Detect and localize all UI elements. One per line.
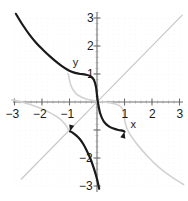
x-tick-label: 1	[122, 108, 129, 120]
x-tick-label: −3	[6, 108, 20, 120]
y-tick-label: 1	[87, 68, 94, 80]
x-tick-label: −2	[33, 108, 47, 120]
x-tick-label: 2	[149, 108, 156, 120]
identity-line	[21, 15, 182, 179]
x-tick-label: −1	[61, 108, 75, 120]
x-tick-label: 3	[177, 108, 184, 120]
y-tick-label: −2	[79, 152, 93, 164]
plot-canvas	[0, 0, 188, 201]
y-tick-label: 2	[87, 40, 94, 52]
y-tick-label: 3	[87, 12, 94, 24]
y-axis-name-label: y	[73, 57, 79, 68]
y-tick-label: −3	[79, 180, 93, 192]
graph-figure: −3−2−1123321−2−3 x y	[0, 0, 188, 201]
x-axis-name-label: x	[131, 119, 137, 130]
